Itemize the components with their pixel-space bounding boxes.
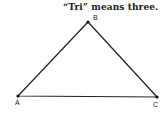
vertex-label-c: C [153,101,158,108]
triangle-diagram [0,0,167,113]
triangle-abc [18,22,157,97]
vertex-a-dot [16,94,19,97]
vertex-label-a: A [15,99,20,106]
vertex-label-b: B [93,14,98,21]
vertex-b-dot [86,20,89,23]
vertex-c-dot [155,95,158,98]
